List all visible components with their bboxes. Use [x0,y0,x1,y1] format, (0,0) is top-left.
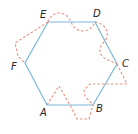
vertex-label-d: D [93,9,101,19]
hexagon-outline [25,22,117,105]
vertex-label-f: F [11,62,17,72]
dashed-curve-ab [47,86,93,119]
vertex-label-e: E [40,10,46,20]
vertex-label-b: B [96,104,103,114]
vertex-label-a: A [40,108,47,118]
diagram-svg [0,0,138,134]
vertex-label-c: C [122,59,129,69]
hexagon-diagram: E D C B A F [0,0,138,134]
dashed-curve-ef [15,22,48,63]
